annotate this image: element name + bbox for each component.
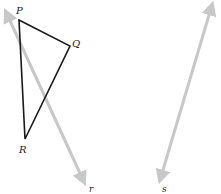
label-q: Q bbox=[72, 38, 80, 49]
triangle-pqr bbox=[19, 20, 70, 139]
label-line-r: r bbox=[89, 184, 94, 194]
diagram-canvas: P Q R r s bbox=[0, 0, 221, 194]
diagram-svg: P Q R r s bbox=[0, 0, 221, 194]
label-p: P bbox=[15, 5, 23, 16]
label-line-s: s bbox=[162, 184, 167, 194]
label-r-vertex: R bbox=[18, 144, 27, 155]
line-s bbox=[160, 5, 212, 180]
